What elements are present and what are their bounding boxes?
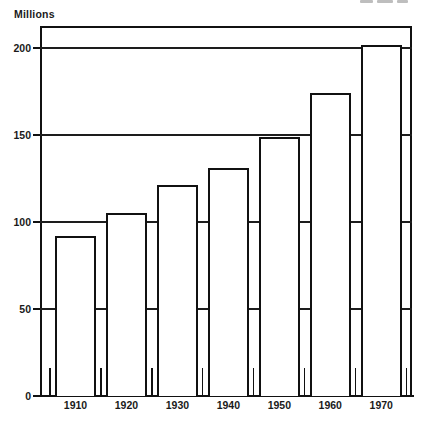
y-axis-unit-label: Millions xyxy=(14,8,55,20)
y-tick-label-wrap-100: 100 xyxy=(0,217,31,228)
bar-1910 xyxy=(55,236,96,396)
x-separator-1920 xyxy=(151,368,153,396)
x-separator-end xyxy=(410,368,412,396)
y-tick-label-100: 100 xyxy=(1,217,31,228)
x-separator-1910 xyxy=(100,368,102,396)
population-bar-chart: Millions 200150100500 191019201930194019… xyxy=(0,0,424,423)
y-tick-200 xyxy=(33,47,40,48)
y-tick-label-wrap-50: 50 xyxy=(0,304,31,315)
gridline-200 xyxy=(40,47,412,48)
x-separator-1930 xyxy=(202,368,204,396)
x-separator-1940 xyxy=(253,368,255,396)
y-tick-100 xyxy=(33,221,40,222)
y-tick-50 xyxy=(33,308,40,309)
gridline-150 xyxy=(40,134,412,135)
x-separator-1950 xyxy=(304,368,306,396)
y-tick-label-wrap-150: 150 xyxy=(0,130,31,141)
x-separator-1970 xyxy=(406,368,408,396)
y-tick-label-wrap-200: 200 xyxy=(0,43,31,54)
x-tick-label-1970: 1970 xyxy=(351,399,411,411)
y-tick-0 xyxy=(33,395,40,396)
y-tick-label-50: 50 xyxy=(1,304,31,315)
x-separator-start xyxy=(49,368,51,396)
bar-1950 xyxy=(259,137,300,396)
bar-1970 xyxy=(361,45,402,396)
y-tick-label-150: 150 xyxy=(1,130,31,141)
scan-artifact xyxy=(360,0,418,7)
bar-1960 xyxy=(310,93,351,396)
y-tick-label-wrap-0: 0 xyxy=(0,391,31,402)
bar-1940 xyxy=(208,168,249,396)
y-tick-label-200: 200 xyxy=(1,43,31,54)
bar-1930 xyxy=(157,185,198,396)
x-separator-1960 xyxy=(355,368,357,396)
bar-1920 xyxy=(106,213,147,396)
y-tick-150 xyxy=(33,134,40,135)
y-tick-label-0: 0 xyxy=(1,391,31,402)
